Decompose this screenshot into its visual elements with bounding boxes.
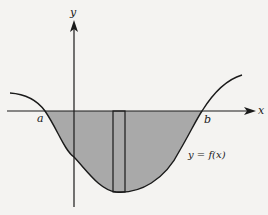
- area-under-curve-figure: y x a b y = f(x): [0, 0, 268, 215]
- curve-label: y = f(x): [188, 150, 226, 160]
- x-axis-label: x: [258, 105, 264, 116]
- label-a: a: [37, 113, 44, 124]
- label-b: b: [204, 114, 211, 125]
- representative-strip: [113, 111, 125, 192]
- figure-graphic: [0, 0, 268, 215]
- y-axis-label: y: [70, 7, 76, 18]
